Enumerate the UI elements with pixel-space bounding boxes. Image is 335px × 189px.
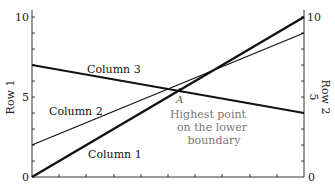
series-label-column-3: Column 3	[87, 63, 141, 76]
y-left-title: Row 1	[4, 80, 17, 115]
chart: 10 5 0 10 0 5 Row 1 Row 2 Column 3 Colum…	[0, 0, 335, 189]
right-tick-10: 10	[307, 11, 321, 24]
right-tick-5: 5	[307, 94, 320, 101]
annotation-line-1: Highest point	[170, 108, 247, 121]
annotation-line-2: on the lower	[177, 121, 248, 134]
series-label-column-2: Column 2	[49, 105, 103, 118]
series-label-column-1: Column 1	[88, 148, 142, 161]
point-a-marker	[178, 88, 182, 92]
series-column-1	[32, 17, 304, 177]
point-a-label: A	[175, 94, 183, 105]
left-tick-10: 10	[15, 11, 29, 24]
y-right-title: Row 2	[319, 80, 332, 115]
series-column-2	[32, 33, 304, 145]
annotation-line-3: boundary	[188, 134, 242, 147]
left-tick-0: 0	[22, 171, 29, 184]
right-tick-0: 0	[308, 171, 315, 184]
left-tick-5: 5	[22, 91, 29, 104]
